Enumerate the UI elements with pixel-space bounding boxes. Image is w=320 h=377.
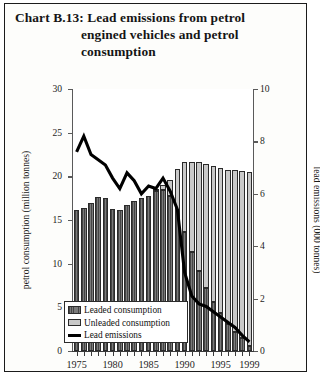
x-axis-tick-label: 1985 [132,359,166,370]
y-axis-left-tick-label: 5 [36,302,62,312]
y-axis-left-tick-label: 0 [36,346,62,356]
y-axis-left-title: petrol consumption (million tonnes) [20,151,31,289]
x-axis-tick [235,352,236,356]
chart-frame: Chart B.13: Lead emissions from petrol e… [4,3,307,372]
y-axis-left-tick-label: 25 [36,128,62,138]
y-axis-left-tick-label: 20 [36,171,62,181]
y-axis-right-tick-label: 2 [260,294,286,304]
x-axis-tick [77,352,78,356]
x-axis-tick [206,352,207,356]
y-axis-right-tick-label: 8 [260,136,286,146]
x-axis-tick [98,352,99,356]
y-axis-left-tick [68,133,72,134]
y-axis-right-tick [254,299,258,300]
x-axis-tick [91,352,92,356]
x-axis-tick [185,352,186,356]
y-axis-right-tick-label: 4 [260,241,286,251]
x-axis-tick-label: 1980 [96,359,130,370]
y-axis-right-tick-label: 10 [260,84,286,94]
y-axis-left-tick [68,264,72,265]
y-axis-right-tick [254,194,258,195]
x-axis-tick [170,352,171,356]
chart-title: Chart B.13: Lead emissions from petrol e… [15,9,300,60]
x-axis-tick [199,352,200,356]
y-axis-left-tick [68,176,72,177]
chart-title-line-1: Chart B.13: Lead emissions from petrol [15,9,300,26]
y-axis-left-tick [68,89,72,90]
y-axis-right-tick-label: 0 [260,346,286,356]
x-axis-tick [192,352,193,356]
x-axis-tick-label: 1990 [168,359,202,370]
x-axis-tick [242,352,243,356]
x-axis-tick [149,352,150,356]
x-axis-tick-label: 1999 [232,359,266,370]
legend-label-unleaded: Unleaded consumption [84,318,170,328]
legend-label-leaded: Leaded consumption [84,305,162,315]
x-axis-tick [156,352,157,356]
x-axis-tick [228,352,229,356]
leaded-swatch-icon [68,306,81,314]
chart-title-line-3: consumption [15,43,300,60]
x-axis-tick [105,352,106,356]
x-axis-tick [134,352,135,356]
x-axis-tick [113,352,114,356]
legend-item-emissions: Lead emissions [68,329,184,341]
y-axis-left-tick-label: 15 [36,215,62,225]
chart-legend: Leaded consumption Unleaded consumption … [64,301,188,343]
x-axis-tick-label: 1975 [60,359,94,370]
y-axis-left-tick [68,351,72,352]
x-axis-tick [221,352,222,356]
y-axis-left-tick [68,220,72,221]
y-axis-right-tick [254,246,258,247]
y-axis-right-tick [254,141,258,142]
y-axis-right-tick [254,89,258,90]
y-axis-left-tick-label: 10 [36,259,62,269]
lead-emissions-line-icon [68,334,81,337]
x-axis-tick [141,352,142,356]
unleaded-swatch-icon [68,319,81,327]
x-axis-tick [127,352,128,356]
y-axis-right-tick [254,351,258,352]
y-axis-right-line [253,89,254,352]
legend-item-unleaded: Unleaded consumption [68,317,184,329]
chart-title-line-2: engined vehicles and petrol [15,26,300,43]
x-axis-tick [177,352,178,356]
x-axis-tick [213,352,214,356]
legend-item-leaded: Leaded consumption [68,304,184,316]
x-axis-tick [120,352,121,356]
x-axis-tick [84,352,85,356]
y-axis-left-tick-label: 30 [36,84,62,94]
y-axis-right-tick-label: 6 [260,189,286,199]
y-axis-right-title: lead emissions (000 tonnes) [312,167,313,274]
x-axis-tick [249,352,250,356]
legend-label-emissions: Lead emissions [84,330,142,340]
x-axis-tick [163,352,164,356]
